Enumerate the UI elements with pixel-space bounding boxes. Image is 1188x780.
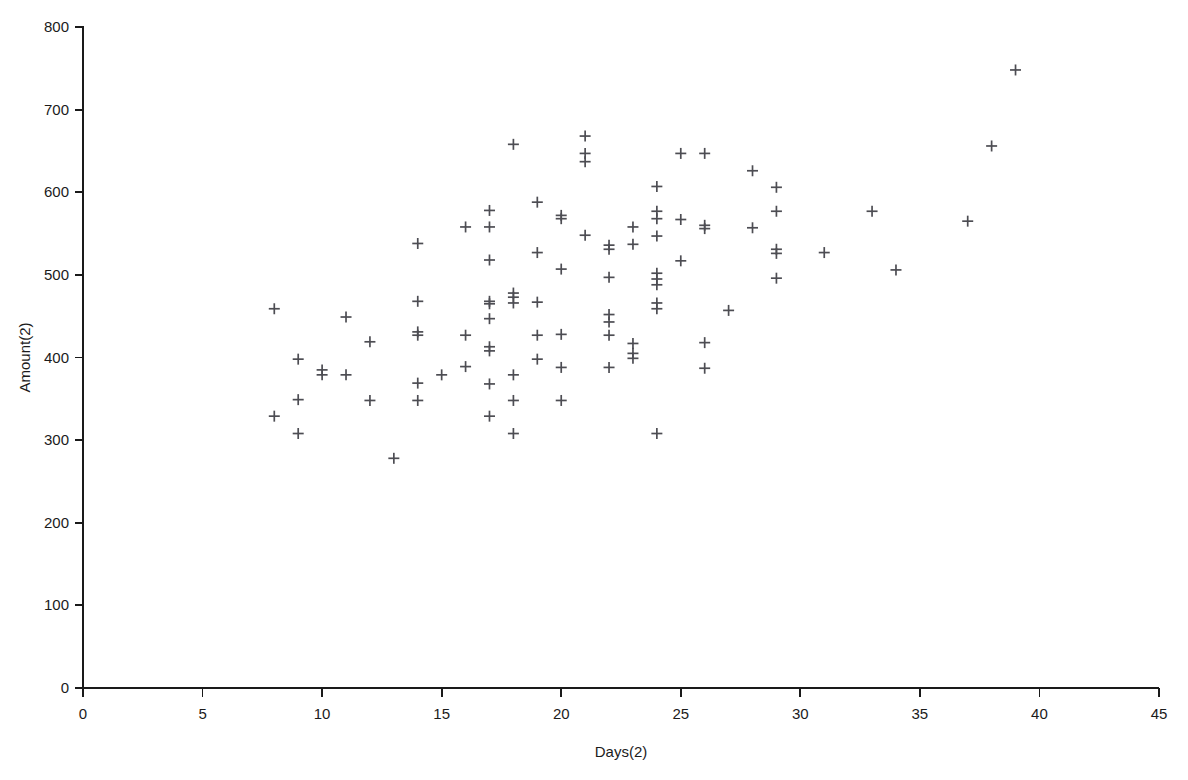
- data-point: [317, 369, 328, 380]
- data-point: [293, 354, 304, 365]
- x-tick-label: 45: [1151, 705, 1168, 722]
- data-point: [723, 305, 734, 316]
- data-point: [675, 148, 686, 159]
- data-point: [627, 338, 638, 349]
- data-point: [460, 330, 471, 341]
- data-point: [604, 330, 615, 341]
- y-tick-label: 600: [44, 183, 69, 200]
- data-point: [293, 394, 304, 405]
- data-point: [508, 297, 519, 308]
- data-point: [651, 428, 662, 439]
- data-point: [388, 453, 399, 464]
- data-point: [484, 298, 495, 309]
- data-point: [604, 362, 615, 373]
- x-tick-label: 30: [792, 705, 809, 722]
- data-point: [651, 279, 662, 290]
- data-point: [1010, 64, 1021, 75]
- data-point: [412, 395, 423, 406]
- data-point: [556, 362, 567, 373]
- scatter-chart: 0100200300400500600700800051015202530354…: [0, 0, 1188, 780]
- data-point: [532, 247, 543, 258]
- y-tick-label: 500: [44, 266, 69, 283]
- data-point: [484, 313, 495, 324]
- data-point: [269, 411, 280, 422]
- data-point: [604, 272, 615, 283]
- data-point: [651, 213, 662, 224]
- x-tick-label: 15: [433, 705, 450, 722]
- data-point: [484, 255, 495, 266]
- data-point: [867, 206, 878, 217]
- y-tick-label: 800: [44, 18, 69, 35]
- data-point: [675, 255, 686, 266]
- y-tick-label: 400: [44, 349, 69, 366]
- data-point: [412, 378, 423, 389]
- y-tick-label: 0: [61, 679, 69, 696]
- x-tick-label: 40: [1031, 705, 1048, 722]
- data-point: [890, 264, 901, 275]
- data-point: [532, 330, 543, 341]
- data-point: [699, 148, 710, 159]
- plot-area: 0100200300400500600700800051015202530354…: [0, 0, 1188, 780]
- data-point: [556, 329, 567, 340]
- y-axis-title: Amount(2): [16, 322, 33, 392]
- data-point: [962, 216, 973, 227]
- data-point: [627, 221, 638, 232]
- data-point: [412, 238, 423, 249]
- data-point: [269, 303, 280, 314]
- data-point: [580, 230, 591, 241]
- data-point: [771, 182, 782, 193]
- data-point: [819, 247, 830, 258]
- x-tick-label: 25: [672, 705, 689, 722]
- data-point: [627, 353, 638, 364]
- data-point: [484, 221, 495, 232]
- y-tick-label: 200: [44, 514, 69, 531]
- data-point: [364, 395, 375, 406]
- data-point: [508, 428, 519, 439]
- x-tick-label: 20: [553, 705, 570, 722]
- x-tick-label: 5: [198, 705, 206, 722]
- data-point: [580, 131, 591, 142]
- data-point: [341, 369, 352, 380]
- data-point: [532, 297, 543, 308]
- x-tick-label: 10: [314, 705, 331, 722]
- data-points-group: [269, 64, 1021, 463]
- y-tick-label: 300: [44, 431, 69, 448]
- data-point: [460, 221, 471, 232]
- x-tick-label: 35: [912, 705, 929, 722]
- data-point: [699, 363, 710, 374]
- data-point: [484, 378, 495, 389]
- data-point: [532, 197, 543, 208]
- data-point: [436, 369, 447, 380]
- data-point: [484, 205, 495, 216]
- data-point: [604, 316, 615, 327]
- data-point: [651, 231, 662, 242]
- x-axis-title: Days(2): [595, 743, 648, 760]
- data-point: [556, 395, 567, 406]
- x-tick-label: 0: [79, 705, 87, 722]
- data-point: [341, 312, 352, 323]
- data-point: [580, 156, 591, 167]
- data-point: [484, 411, 495, 422]
- data-point: [699, 337, 710, 348]
- y-tick-label: 100: [44, 596, 69, 613]
- data-point: [508, 139, 519, 150]
- data-point: [747, 165, 758, 176]
- data-point: [651, 181, 662, 192]
- data-point: [771, 273, 782, 284]
- data-point: [364, 336, 375, 347]
- data-point: [508, 395, 519, 406]
- data-point: [986, 140, 997, 151]
- data-point: [556, 264, 567, 275]
- data-point: [412, 296, 423, 307]
- data-point: [771, 206, 782, 217]
- y-tick-label: 700: [44, 101, 69, 118]
- data-point: [675, 214, 686, 225]
- data-point: [651, 303, 662, 314]
- data-point: [747, 222, 758, 233]
- data-point: [293, 428, 304, 439]
- data-point: [627, 239, 638, 250]
- data-point: [460, 361, 471, 372]
- data-point: [532, 354, 543, 365]
- data-point: [508, 369, 519, 380]
